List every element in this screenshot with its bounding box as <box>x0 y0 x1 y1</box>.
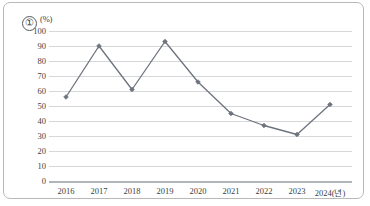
line-chart-figure: ① (%) 0102030405060708090100 20162017201… <box>0 0 370 206</box>
data-series-plot <box>0 0 370 206</box>
series-markers-group <box>64 39 333 137</box>
series-line-path <box>66 42 330 135</box>
data-point-marker <box>262 123 267 128</box>
